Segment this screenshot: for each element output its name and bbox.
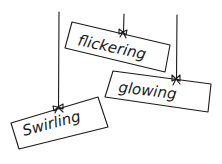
string-swirling <box>59 12 60 107</box>
sign-glowing: glowing <box>105 71 211 112</box>
hanging-signs-illustration: flickering glowing Swirling <box>0 0 222 164</box>
sign-flickering: flickering <box>65 22 170 72</box>
string-glowing <box>177 15 178 78</box>
sign-swirling: Swirling <box>11 97 108 149</box>
string-flickering <box>124 14 125 31</box>
